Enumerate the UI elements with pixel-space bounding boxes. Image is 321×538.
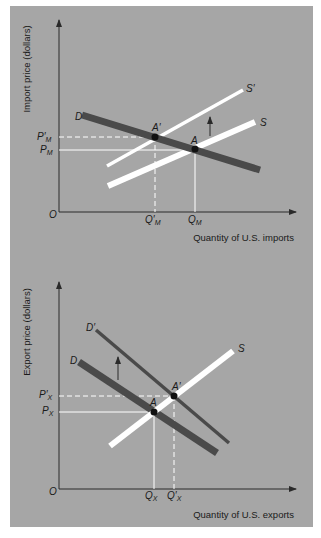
export-label-d: D: [70, 355, 77, 366]
export-qty-q-prime: Q′X: [167, 490, 182, 502]
export-qty-q: QX: [145, 490, 158, 502]
import-y-axis-title: Import price (dollars): [21, 25, 32, 112]
import-origin-label: O: [49, 209, 57, 220]
export-label-d-prime: D′: [86, 322, 96, 333]
import-chart: D S′ S A′ A P′M PM Q′M QM O Quantity of …: [21, 20, 296, 243]
export-y-axis-title: Export price (dollars): [21, 288, 32, 376]
import-x-axis-title: Quantity of U.S. imports: [193, 232, 294, 243]
import-point-a: [192, 146, 199, 153]
export-point-a: [151, 409, 158, 416]
export-x-axis-title: Quantity of U.S. exports: [193, 509, 294, 520]
export-point-a-prime: [171, 393, 178, 400]
import-point-a-prime: [152, 134, 159, 141]
figure-svg: D S′ S A′ A P′M PM Q′M QM O Quantity of …: [0, 0, 321, 538]
export-price-p: PX: [42, 405, 54, 417]
import-label-a-prime: A′: [151, 122, 162, 133]
import-qty-q-prime: Q′M: [145, 214, 161, 226]
import-price-p-prime: P′M: [37, 131, 52, 143]
export-label-a-prime: A′: [171, 381, 182, 392]
export-origin-label: O: [49, 486, 57, 497]
import-label-d: D: [75, 111, 82, 122]
import-label-s-prime: S′: [246, 83, 256, 94]
export-label-a: A: [149, 397, 157, 408]
import-price-p: PM: [40, 144, 53, 156]
import-qty-q: QM: [188, 214, 202, 226]
export-price-p-prime: P′X: [39, 389, 53, 401]
import-label-a: A: [190, 135, 198, 146]
export-chart: D′ D S A A′ P′X PX QX Q′X O Quantity of …: [21, 282, 296, 520]
export-label-s: S: [238, 343, 245, 354]
import-label-s: S: [260, 117, 267, 128]
